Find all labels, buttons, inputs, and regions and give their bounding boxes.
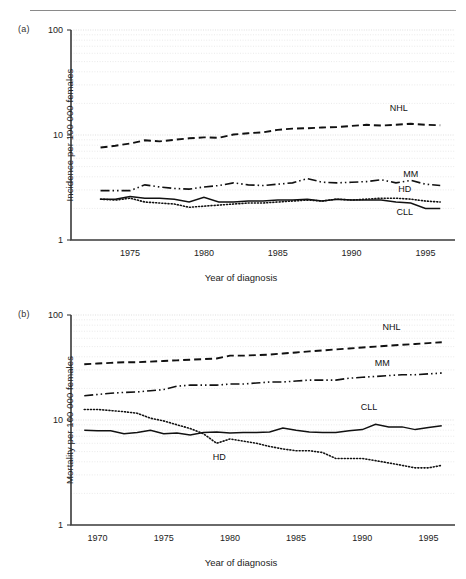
series-line-mm	[84, 373, 442, 396]
x-tick-label: 1995	[415, 248, 435, 258]
header-rule	[30, 10, 456, 11]
chart-svg-a: 11010019751980198519901995NHLMMHDCLL	[0, 20, 466, 270]
series-line-cll	[84, 424, 442, 435]
series-label-cll: CLL	[397, 207, 414, 217]
panel-label-b: (b)	[18, 309, 30, 319]
x-tick-label: 1975	[120, 248, 140, 258]
y-tick-label: 10	[53, 415, 63, 425]
x-tick-label: 1990	[342, 248, 362, 258]
chart-panel-a: (a) Incidence per 100 000 females 110100…	[0, 20, 466, 290]
y-axis-title-wrap-b: Mortality per 100 000 females	[34, 315, 48, 525]
chart-panel-b: (b) Mortality per 100 000 females 110100…	[0, 305, 466, 575]
series-label-mm: MM	[375, 358, 390, 368]
series-label-hd: HD	[398, 184, 411, 194]
x-axis-title-a: Year of diagnosis	[8, 272, 466, 283]
series-line-mm	[101, 179, 441, 191]
panel-label-a: (a)	[18, 24, 30, 34]
series-label-mm: MM	[403, 169, 418, 179]
series-label-nhl: NHL	[390, 103, 408, 113]
y-tick-label: 1	[58, 520, 63, 530]
x-tick-label: 1990	[352, 533, 372, 543]
x-tick-label: 1985	[286, 533, 306, 543]
y-tick-label: 10	[53, 130, 63, 140]
series-line-nhl	[101, 124, 441, 148]
x-tick-label: 1980	[220, 533, 240, 543]
x-tick-label: 1975	[154, 533, 174, 543]
series-label-nhl: NHL	[382, 322, 400, 332]
y-tick-label: 100	[48, 310, 63, 320]
series-line-hd	[101, 198, 441, 207]
y-tick-label: 1	[58, 235, 63, 245]
chart-svg-b: 110100197019751980198519901995NHLMMCLLHD	[0, 305, 466, 555]
series-line-hd	[84, 409, 442, 467]
x-axis-title-b: Year of diagnosis	[8, 557, 466, 568]
y-axis-title-wrap-a: Incidence per 100 000 females	[34, 30, 48, 240]
x-tick-label: 1995	[419, 533, 439, 543]
x-tick-label: 1970	[87, 533, 107, 543]
series-label-hd: HD	[213, 452, 226, 462]
x-tick-label: 1980	[194, 248, 214, 258]
series-label-cll: CLL	[361, 402, 378, 412]
y-tick-label: 100	[48, 25, 63, 35]
x-tick-label: 1985	[268, 248, 288, 258]
